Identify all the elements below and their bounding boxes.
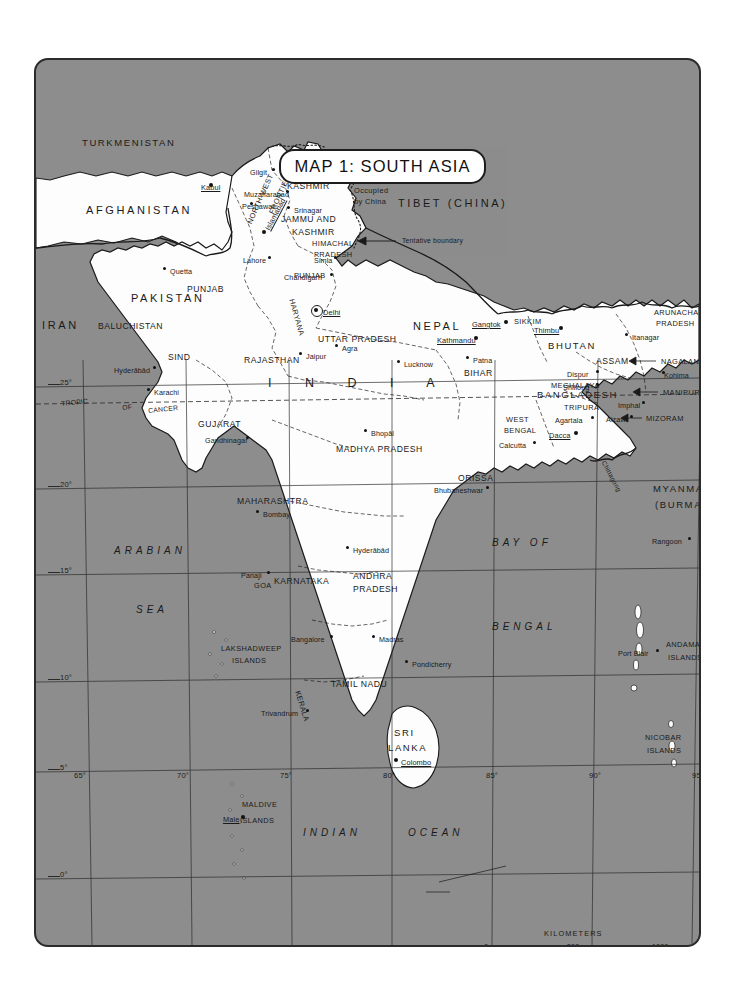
graticule-lat-tick	[48, 572, 60, 573]
map-title: MAP 1: SOUTH ASIA	[294, 157, 470, 176]
map-title-box: MAP 1: SOUTH ASIA	[279, 149, 486, 184]
scale-tick-0: 0	[484, 942, 488, 947]
graticule-lat-tick	[48, 876, 60, 877]
tentative-boundary-arrow	[358, 237, 396, 245]
scale-tick-500: 500	[567, 942, 579, 947]
graticule-lat-tick	[48, 384, 60, 385]
delhi-capital-ring	[311, 305, 323, 317]
graticule-lat-tick	[48, 769, 60, 770]
boundary-layer	[36, 60, 699, 945]
scale-tick-1000: 1000	[652, 942, 668, 947]
scale-caption: KILOMETERS	[544, 929, 603, 938]
graticule-lat-tick	[48, 486, 60, 487]
map-page: MAP 1: SOUTH ASIA TURKMENISTANAFGHANISTA…	[0, 0, 731, 1000]
graticule-lat-tick	[48, 679, 60, 680]
map-frame: MAP 1: SOUTH ASIA TURKMENISTANAFGHANISTA…	[34, 58, 701, 947]
map-canvas: MAP 1: SOUTH ASIA TURKMENISTANAFGHANISTA…	[36, 60, 699, 945]
